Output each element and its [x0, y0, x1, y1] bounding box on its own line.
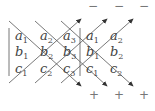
- svg-text:c1: c1: [15, 61, 27, 78]
- svg-text:c3: c3: [63, 61, 75, 78]
- sarrus-diagram: a1 a2 a3 a1 a2 b1 b2 b3 b1 b2 c1 c2 c3 c…: [0, 0, 155, 111]
- minus-sign: −: [139, 0, 149, 13]
- plus-sign: +: [89, 88, 99, 102]
- minus-signs: − − −: [88, 0, 149, 13]
- plus-sign: +: [139, 88, 149, 102]
- svg-text:c2: c2: [40, 61, 52, 78]
- plus-signs: + + +: [89, 88, 149, 102]
- minus-sign: −: [88, 0, 98, 13]
- svg-text:c2: c2: [110, 61, 122, 78]
- svg-text:c1: c1: [86, 61, 98, 78]
- plus-sign: +: [114, 88, 124, 102]
- minus-sign: −: [114, 0, 124, 13]
- svg-text:b2: b2: [40, 44, 53, 61]
- svg-text:b3: b3: [63, 44, 76, 61]
- matrix-row-b: b1 b2 b3 b1 b2: [15, 44, 123, 61]
- svg-text:b1: b1: [86, 44, 99, 61]
- svg-text:a2: a2: [110, 28, 123, 45]
- svg-text:b2: b2: [110, 44, 123, 61]
- svg-text:a1: a1: [86, 28, 99, 45]
- svg-text:a1: a1: [15, 28, 28, 45]
- svg-text:a2: a2: [40, 28, 53, 45]
- svg-text:a3: a3: [63, 28, 76, 45]
- svg-text:b1: b1: [15, 44, 28, 61]
